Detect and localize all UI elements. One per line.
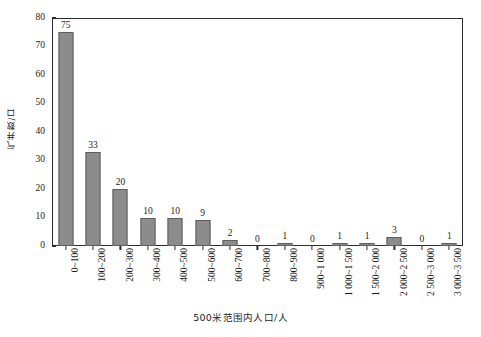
x-category-label: 600~700	[234, 248, 244, 308]
bar-group: 0	[408, 18, 435, 246]
bar	[113, 189, 128, 246]
x-category-label: 2 000~2 500	[399, 248, 409, 308]
x-category-label: 1 500~2 000	[371, 248, 381, 308]
bar	[86, 152, 101, 246]
y-tick-label: 0	[40, 240, 45, 250]
y-tick-label: 30	[36, 154, 46, 164]
bar	[168, 218, 183, 247]
x-category-label: 500~600	[207, 248, 217, 308]
bar-value-label: 1	[337, 231, 342, 241]
bar-group: 75	[52, 18, 79, 246]
bar-group: 20	[107, 18, 134, 246]
bar-value-label: 1	[365, 231, 370, 241]
bar-group: 33	[79, 18, 106, 246]
y-tick-label: 60	[36, 69, 46, 79]
bar-group: 2	[216, 18, 243, 246]
bar-value-label: 1	[283, 231, 288, 241]
y-tick-label: 50	[36, 97, 46, 107]
bar-value-label: 0	[255, 234, 260, 244]
bar-group: 0	[299, 18, 326, 246]
x-category-label: 3 000~3 500	[453, 248, 463, 308]
x-category-label: 100~200	[97, 248, 107, 308]
x-axis-title: 500米范围内人口/人	[0, 310, 481, 324]
x-category-label: 0~100	[70, 248, 80, 308]
y-tick-label: 70	[36, 40, 46, 50]
bar-group: 1	[326, 18, 353, 246]
y-tick-label: 40	[36, 126, 46, 136]
bar-group: 10	[162, 18, 189, 246]
x-category-label: 2 500~3 000	[426, 248, 436, 308]
bar-value-label: 75	[61, 20, 71, 30]
bar-group: 3	[381, 18, 408, 246]
bar-group: 1	[436, 18, 463, 246]
bar-value-label: 1	[447, 231, 452, 241]
bar-value-label: 9	[200, 208, 205, 218]
bar-value-label: 33	[88, 140, 98, 150]
x-category-label: 200~300	[125, 248, 135, 308]
bar-group: 9	[189, 18, 216, 246]
bar-value-label: 20	[116, 177, 126, 187]
x-category-label: 700~800	[262, 248, 272, 308]
y-tick-label: 80	[36, 12, 46, 22]
bar	[195, 220, 210, 246]
y-axis-title: 气井数/口	[6, 96, 22, 160]
bar-group: 10	[134, 18, 161, 246]
bar-group: 1	[353, 18, 380, 246]
bar-group: 0	[244, 18, 271, 246]
bar-value-label: 0	[420, 234, 425, 244]
bar-chart-figure: 气井数/口 01020304050607080 7533201010920101…	[0, 0, 481, 337]
bars-layer: 75332010109201011301	[52, 18, 463, 246]
bar-group: 1	[271, 18, 298, 246]
bar	[58, 32, 73, 246]
bar-value-label: 3	[392, 225, 397, 235]
bar-value-label: 10	[171, 206, 181, 216]
x-category-label: 300~400	[152, 248, 162, 308]
bar	[387, 237, 402, 246]
bar-value-label: 10	[143, 206, 153, 216]
x-category-label: 1 000~1 500	[344, 248, 354, 308]
bar-value-label: 0	[310, 234, 315, 244]
x-category-label: 800~900	[289, 248, 299, 308]
x-axis-tick-labels: 0~100100~200200~300300~400400~500500~600…	[52, 248, 463, 308]
x-category-label: 400~500	[179, 248, 189, 308]
bar-value-label: 2	[228, 228, 233, 238]
y-tick-label: 10	[36, 211, 46, 221]
y-tick-label: 20	[36, 183, 46, 193]
bar	[140, 218, 155, 247]
x-category-label: 900~1 000	[316, 248, 326, 308]
